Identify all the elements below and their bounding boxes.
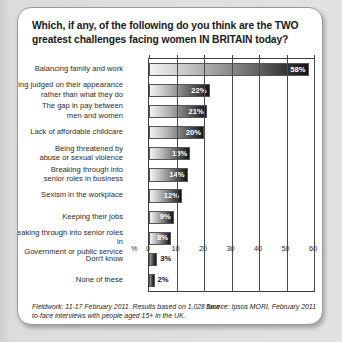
- footer-source: Source: Ipsos MORI, February 2011: [206, 302, 316, 311]
- category-label: Being threatened byabuse or sexual viole…: [17, 144, 123, 163]
- category-label: Sexism in the workplace: [17, 190, 123, 199]
- axis-tick-label: 40: [254, 244, 262, 253]
- category-label: Being judged on their appearancerather t…: [17, 80, 123, 99]
- screenshot-background: Which, if any, of the following do you t…: [0, 0, 342, 342]
- category-label: Breaking through intosenior roles in bus…: [17, 165, 123, 184]
- axis-tick: [204, 55, 205, 59]
- axis-tick: [314, 55, 315, 59]
- bar: [149, 63, 309, 76]
- axis-tick: [232, 55, 233, 59]
- category-label: Balancing family and work: [17, 64, 123, 73]
- footer: Fieldwork: 11-17 February 2011. Results …: [32, 302, 316, 325]
- category-label: Keeping their jobs: [17, 212, 123, 221]
- bar-value-label: 15%: [172, 150, 187, 158]
- chart-card: Which, if any, of the following do you t…: [17, 7, 323, 325]
- gridline: [259, 59, 260, 291]
- axis-tick: [177, 55, 178, 59]
- x-axis: 0102030405060%: [18, 244, 322, 256]
- category-label: Lack of affordable childcare: [17, 127, 123, 136]
- gridline: [314, 59, 315, 291]
- chart-title: Which, if any, of the following do you t…: [32, 19, 316, 46]
- axis-tick-label: 10: [171, 244, 179, 253]
- category-label: None of these: [17, 275, 123, 284]
- bar-value-label: 9%: [160, 213, 171, 221]
- axis-tick: [149, 55, 150, 59]
- bar-value-label: 8%: [157, 234, 168, 242]
- axis-tick: [259, 55, 260, 59]
- bar-value-label: 3%: [160, 256, 171, 264]
- bar-value-label: 58%: [290, 66, 305, 74]
- gridline: [177, 59, 178, 291]
- bar-value-label: 2%: [158, 277, 169, 285]
- axis-tick-label: 20: [199, 244, 207, 253]
- axis-percent-symbol: %: [131, 244, 138, 253]
- footer-fieldwork: Fieldwork: 11-17 February 2011. Results …: [32, 302, 227, 321]
- axis-tick-label: 30: [226, 244, 234, 253]
- category-label: The gap in pay betweenmen and women: [17, 101, 123, 120]
- gridline: [204, 59, 205, 291]
- axis-tick: [287, 55, 288, 59]
- bar-value-label: 20%: [186, 129, 201, 137]
- axis-tick-label: 50: [281, 244, 289, 253]
- gridline: [287, 59, 288, 291]
- plot-area: 58%22%21%20%15%14%12%9%8%3%2%: [148, 58, 315, 292]
- axis-tick-label: 60: [309, 244, 317, 253]
- axis-tick-label: 0: [146, 244, 150, 253]
- bar: [149, 274, 155, 287]
- bar-value-label: 21%: [189, 108, 204, 116]
- gridline: [232, 59, 233, 291]
